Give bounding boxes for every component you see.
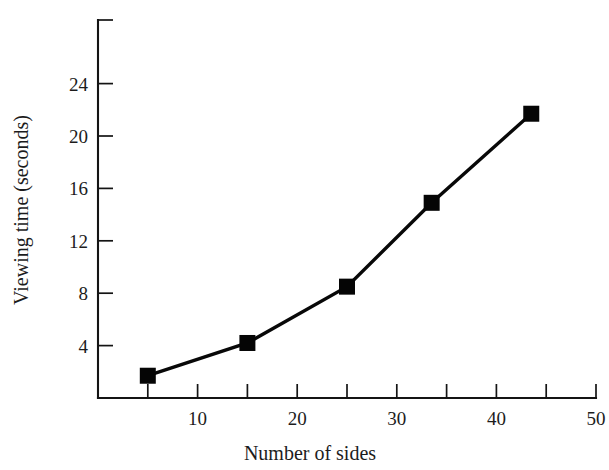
x-tick-label: 10 bbox=[188, 408, 207, 429]
series-group bbox=[140, 106, 539, 384]
data-point-marker bbox=[239, 335, 255, 351]
data-point-marker bbox=[140, 368, 156, 384]
series-line-viewing-time bbox=[148, 114, 531, 376]
y-axis-tick-labels: 4812162024 bbox=[69, 74, 89, 357]
data-point-marker bbox=[523, 106, 539, 122]
y-tick-label: 20 bbox=[69, 126, 88, 147]
y-tick-label: 8 bbox=[79, 283, 89, 304]
y-tick-label: 12 bbox=[69, 231, 88, 252]
x-tick-label: 40 bbox=[487, 408, 506, 429]
x-axis-title: Number of sides bbox=[244, 442, 376, 464]
x-axis-ticks bbox=[148, 384, 596, 398]
y-tick-label: 24 bbox=[69, 74, 89, 95]
data-point-marker bbox=[424, 195, 440, 211]
y-tick-label: 16 bbox=[69, 178, 88, 199]
x-tick-label: 30 bbox=[387, 408, 406, 429]
x-axis-tick-labels: 1020304050 bbox=[188, 408, 605, 429]
y-tick-label: 4 bbox=[79, 336, 89, 357]
chart-figure: 4812162024 1020304050 Number of sides Vi… bbox=[0, 0, 609, 470]
y-axis-title: Viewing time (seconds) bbox=[10, 115, 33, 305]
y-axis-ticks bbox=[98, 84, 113, 346]
x-tick-label: 50 bbox=[587, 408, 606, 429]
series-markers-viewing-time bbox=[140, 106, 539, 384]
data-point-marker bbox=[339, 279, 355, 295]
axes-group bbox=[98, 20, 596, 398]
x-tick-label: 20 bbox=[288, 408, 307, 429]
line-chart-svg: 4812162024 1020304050 Number of sides Vi… bbox=[0, 0, 609, 470]
